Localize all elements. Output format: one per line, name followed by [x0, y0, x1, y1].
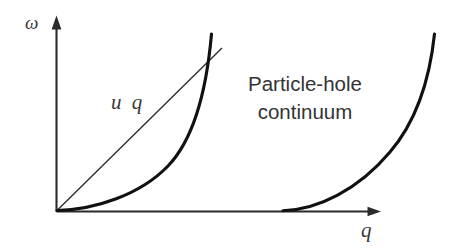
particle-hole-continuum-label: Particle-hole continuum [229, 70, 381, 127]
lower-continuum-boundary-curve [57, 34, 212, 211]
continuum-label-line-2: continuum [229, 98, 381, 126]
x-axis-arrow-icon [368, 207, 382, 216]
sound-mode-label: u q [111, 92, 145, 113]
y-axis-group [52, 16, 62, 212]
x-axis-group [57, 207, 382, 216]
figure-canvas: ω q u q Particle-hole continuum [0, 0, 453, 251]
x-axis-label: q [361, 220, 372, 241]
y-axis-label: ω [25, 13, 38, 32]
y-axis-arrow-icon [52, 16, 62, 30]
continuum-label-line-1: Particle-hole [229, 70, 381, 98]
dispersion-diagram-svg [0, 0, 453, 251]
